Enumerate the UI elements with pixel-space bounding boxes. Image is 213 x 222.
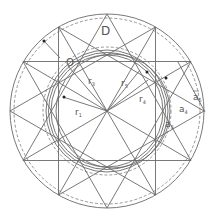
point-marker	[63, 96, 66, 99]
construction-lines	[10, 14, 205, 208]
label-a4: a4	[179, 104, 188, 115]
point-marker	[146, 71, 149, 74]
point-marker	[165, 77, 168, 80]
label-a3: a3	[165, 119, 174, 130]
label-r3: r3	[88, 76, 95, 87]
label-r1: r1	[75, 107, 82, 118]
label-r4: r4	[139, 94, 146, 105]
arrow-outer	[43, 40, 60, 58]
label-O: O	[66, 57, 74, 68]
label-a5: a5	[193, 92, 202, 103]
label-r5: r5	[121, 78, 128, 89]
hexagram-triangle-down	[23, 62, 191, 209]
points	[43, 40, 168, 99]
radius-r5	[107, 70, 140, 111]
label-D: D	[101, 24, 110, 38]
radius-r3	[68, 66, 107, 111]
point-marker	[43, 40, 46, 43]
geometry-diagram: D O r1 r3 r5 r4 a5 a4 a3	[0, 0, 213, 222]
